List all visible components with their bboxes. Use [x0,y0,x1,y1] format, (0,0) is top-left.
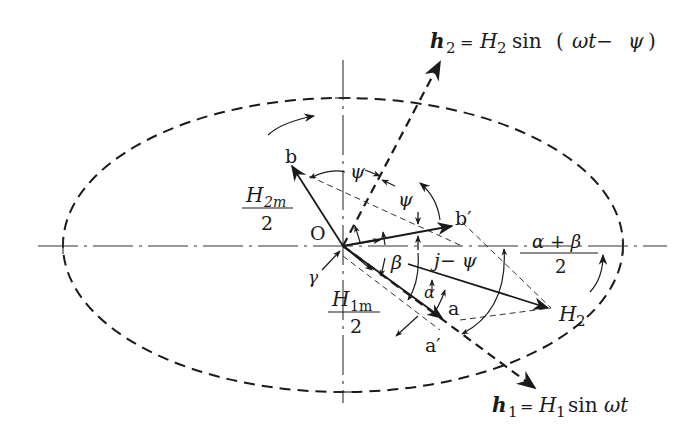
field-diagram: h 2 = H 2 sin ( ωt− ψ ) h 1 = H 1 sin ωt… [0,0,700,443]
vector-a-prime [343,240,380,246]
label-alpha: α [424,283,435,302]
gamma-arrow [322,251,340,270]
svg-text:(: ( [556,29,564,53]
svg-text:H: H [331,287,350,311]
svg-text:H: H [558,302,577,326]
equation-h1: h 1 = H 1 sin ωt [492,393,629,421]
svg-text:2: 2 [555,256,566,277]
svg-text:h: h [492,393,507,417]
label-j-minus-psi: j− ψ [430,249,478,271]
rotation-arrow-right [590,255,603,292]
small-arrow [355,226,360,242]
svg-text:2: 2 [261,212,273,234]
svg-text:=: = [460,33,473,52]
svg-text:1: 1 [556,403,566,421]
h2-direction-line [343,62,440,246]
psi-tick [365,170,380,176]
svg-text:2: 2 [497,39,507,57]
svg-text:H: H [538,393,557,417]
label-a: a [448,297,459,319]
svg-text:H: H [245,183,264,207]
label-H2-point: H 2 [558,302,586,330]
svg-text:sin: sin [512,29,542,53]
psi-tick [382,180,395,186]
svg-text:ψ: ψ [628,29,644,53]
a-prime-arrow [396,316,418,336]
svg-text:2: 2 [446,39,456,57]
label-beta: β [390,251,402,273]
angle-arc-beta [408,253,418,300]
vector-small [343,246,372,270]
small-arrow [381,258,385,276]
svg-text:2: 2 [350,315,362,337]
svg-text:H: H [479,29,498,53]
label-b: b [285,145,297,167]
label-psi-2: ψ [398,188,414,210]
svg-text:): ) [648,29,656,53]
label-b-prime: b′ [455,207,471,229]
label-psi-1: ψ [350,160,366,182]
psi-arc-1 [310,171,345,178]
rotation-arrow-b-prime [420,183,440,220]
equation-h2: h 2 = H 2 sin ( ωt− ψ ) [430,29,656,57]
label-alpha-plus-beta-over-2: α + β 2 [532,231,581,277]
svg-text:=: = [520,397,533,416]
svg-text:sin: sin [568,393,598,417]
svg-text:ωt−: ωt− [572,29,613,53]
svg-text:1: 1 [508,403,518,421]
svg-text:2m: 2m [263,194,286,210]
label-a-prime: a′ [425,334,441,356]
rotation-arrow-top-left [268,116,314,135]
svg-text:h: h [430,29,445,53]
label-origin: O [310,222,326,244]
svg-text:2: 2 [576,312,586,330]
svg-text:1m: 1m [350,298,372,314]
svg-text:α + β: α + β [532,231,581,252]
label-gamma: γ [308,267,319,287]
svg-text:ωt: ωt [604,393,629,417]
construction-line [460,308,551,320]
